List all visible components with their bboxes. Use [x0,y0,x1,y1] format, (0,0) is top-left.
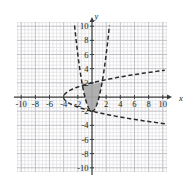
y-tick-9: -10 [77,163,88,173]
y-tick-1: 8 [84,35,88,45]
y-tick-4: 2 [84,78,88,88]
coordinate-plane: -10-8-6-4-2246810108642-2-4-6-8-10 x y [0,0,190,183]
x-tick-8: 8 [147,99,151,109]
x-tick-7: 6 [132,99,136,109]
x-tick-1: -8 [32,99,39,109]
x-axis-label: x [178,93,183,103]
y-tick-7: -6 [81,135,88,145]
y-axis-label: y [94,11,99,21]
x-tick-5: 2 [104,99,108,109]
x-tick-0: -10 [16,99,27,109]
x-tick-9: 10 [159,99,168,109]
x-tick-3: -4 [60,99,68,109]
x-tick-2: -6 [46,99,53,109]
y-tick-8: -8 [81,149,88,159]
x-tick-4: -2 [74,99,81,109]
graph-figure: -10-8-6-4-2246810108642-2-4-6-8-10 x y [0,0,190,183]
y-tick-2: 6 [84,50,88,60]
x-tick-6: 4 [118,99,123,109]
y-tick-0: 10 [80,21,89,31]
y-tick-5: -2 [81,106,88,116]
y-tick-6: -4 [81,120,89,130]
